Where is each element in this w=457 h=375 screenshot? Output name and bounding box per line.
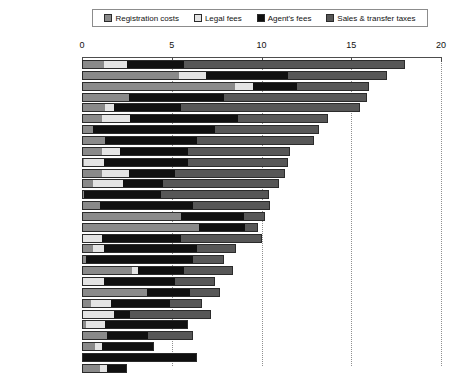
bar-segment-legal — [235, 82, 253, 91]
legend-label: Agent's fees — [268, 14, 312, 23]
stacked-bar — [82, 342, 154, 351]
legend-item-legal: Legal fees — [194, 14, 242, 23]
bar-segment-sales — [245, 223, 258, 232]
bar-segment-sales — [170, 299, 202, 308]
bar-segment-legal — [179, 71, 206, 80]
bar-segment-legal — [82, 310, 114, 319]
bar-segment-sales — [175, 169, 284, 178]
bar-segment-agent — [105, 136, 197, 145]
legend-item-agent: Agent's fees — [257, 14, 312, 23]
bar-segment-sales — [215, 125, 319, 134]
stacked-bar — [82, 331, 193, 340]
stacked-bar — [82, 299, 202, 308]
chart-legend: Registration costsLegal feesAgent's fees… — [92, 9, 428, 27]
bar-segment-sales — [193, 201, 270, 210]
bar-segment-agent — [199, 223, 246, 232]
bar-segment-sales — [244, 212, 266, 221]
gridline-20 — [441, 58, 443, 366]
stacked-bar — [82, 93, 367, 102]
bar-segment-agent — [100, 201, 193, 210]
stacked-bar — [82, 364, 127, 373]
bar-segment-legal — [105, 103, 114, 112]
bar-segment-agent — [111, 299, 170, 308]
stacked-bar — [82, 190, 269, 199]
bar-segment-registration — [82, 125, 93, 134]
bar-segment-agent — [107, 364, 127, 373]
legend-swatch-legal-icon — [194, 14, 202, 22]
bar-segment-agent — [82, 353, 197, 362]
stacked-bar — [82, 353, 197, 362]
stacked-bar — [82, 266, 233, 275]
bar-segment-agent — [102, 234, 181, 243]
bar-segment-sales — [297, 82, 369, 91]
bar-segment-agent — [206, 71, 289, 80]
stacked-bar — [82, 103, 360, 112]
legend-label: Sales & transfer taxes — [337, 14, 415, 23]
bar-segment-registration — [82, 223, 199, 232]
bar-segment-registration — [82, 169, 102, 178]
bar-segment-registration — [82, 342, 95, 351]
stacked-bar — [82, 179, 279, 188]
legend-item-sales: Sales & transfer taxes — [326, 14, 415, 23]
bar-segment-agent — [114, 103, 180, 112]
bar-segment-legal — [95, 342, 102, 351]
bar-segment-agent — [114, 310, 130, 319]
bar-segment-agent — [138, 266, 185, 275]
bar-segment-agent — [120, 147, 188, 156]
bar-segment-sales — [193, 255, 224, 264]
x-tick-label: 0 — [79, 40, 84, 50]
stacked-bar — [82, 244, 236, 253]
bar-segment-registration — [82, 82, 235, 91]
legend-swatch-registration-icon — [104, 14, 112, 22]
bar-segment-agent — [107, 331, 148, 340]
x-tick-label: 5 — [169, 40, 174, 50]
bar-segment-agent — [147, 288, 190, 297]
bar-segment-sales — [190, 288, 221, 297]
legend-swatch-agent-icon — [257, 14, 265, 22]
bar-segment-sales — [188, 158, 289, 167]
bar-segment-legal — [104, 60, 127, 69]
bar-segment-agent — [104, 244, 197, 253]
legend-item-registration: Registration costs — [104, 14, 179, 23]
bar-segment-registration — [82, 103, 105, 112]
bar-segment-sales — [175, 277, 214, 286]
bar-segment-registration — [82, 364, 100, 373]
bar-segment-sales — [148, 331, 193, 340]
bar-segment-registration — [82, 147, 102, 156]
bar-segment-legal — [91, 299, 111, 308]
bar-segment-sales — [238, 114, 328, 123]
bar-segment-registration — [82, 331, 107, 340]
bar-segment-registration — [82, 71, 179, 80]
bar-segment-sales — [130, 310, 211, 319]
bar-segment-legal — [93, 179, 124, 188]
bar-segment-registration — [82, 201, 100, 210]
bar-segment-agent — [105, 320, 188, 329]
bar-segment-sales — [197, 244, 236, 253]
bar-segment-legal — [82, 234, 102, 243]
stacked-bar — [82, 169, 285, 178]
stacked-bar-chart: Registration costsLegal feesAgent's fees… — [0, 0, 457, 375]
x-tick-20 — [441, 58, 442, 62]
bar-segment-registration — [82, 288, 147, 297]
bar-segment-legal — [102, 114, 131, 123]
bar-segment-legal — [84, 158, 104, 167]
bar-segment-registration — [82, 266, 132, 275]
bar-segment-sales — [224, 93, 368, 102]
bar-segment-agent — [104, 277, 176, 286]
bar-segment-registration — [82, 136, 105, 145]
bar-segment-sales — [181, 234, 262, 243]
stacked-bar — [82, 147, 290, 156]
bar-segment-sales — [188, 147, 290, 156]
bar-segment-registration — [82, 93, 129, 102]
legend-swatch-sales-icon — [326, 14, 334, 22]
x-tick-label: 10 — [256, 40, 266, 50]
bar-segment-registration — [82, 212, 181, 221]
stacked-bar — [82, 158, 288, 167]
stacked-bar — [82, 82, 369, 91]
bar-segment-legal — [102, 169, 129, 178]
stacked-bar — [82, 288, 220, 297]
bar-segment-sales — [184, 266, 232, 275]
bar-segment-legal — [100, 364, 107, 373]
bar-segment-legal — [86, 320, 106, 329]
bar-segment-legal — [82, 277, 104, 286]
